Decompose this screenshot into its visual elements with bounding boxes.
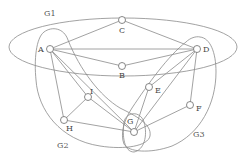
node-d	[194, 46, 201, 53]
node-f	[187, 102, 194, 109]
edge-a-i	[50, 49, 88, 97]
node-b	[119, 63, 126, 70]
label-a: A	[37, 45, 44, 54]
label-h: H	[66, 124, 73, 133]
node-c	[119, 17, 126, 24]
label-g: G	[127, 117, 133, 126]
edge-a-b	[50, 49, 122, 66]
label-i: I	[90, 87, 93, 96]
label-d: D	[203, 45, 209, 54]
edge-i-g	[88, 97, 134, 132]
graph-diagram: A B C D E F G H I G1 G2 G3	[0, 0, 245, 159]
edge-i-h	[64, 97, 88, 120]
node-e	[146, 84, 153, 91]
node-h	[61, 117, 68, 124]
edge-a-c	[50, 20, 122, 49]
edge-c-d	[122, 20, 197, 49]
group-label-g1: G1	[44, 9, 55, 18]
group-label-g2: G2	[57, 141, 68, 150]
node-a	[47, 46, 54, 53]
group-label-g3: G3	[193, 130, 204, 139]
node-g	[131, 129, 138, 136]
label-e: E	[155, 86, 161, 95]
label-c: C	[119, 26, 125, 35]
label-f: F	[196, 104, 202, 113]
label-b: B	[119, 71, 125, 80]
edge-a-h	[50, 49, 64, 120]
